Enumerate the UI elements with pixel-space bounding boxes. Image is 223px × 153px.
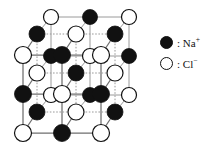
lattice-diagram [0, 0, 223, 153]
ion-cl [44, 10, 59, 25]
nacl-lattice-figure: : Na+ : Cl− [0, 0, 223, 153]
ion-na [54, 47, 71, 64]
ion-cl [107, 65, 123, 81]
open-circle-icon [160, 57, 173, 70]
ion-cl [15, 125, 32, 142]
ion-cl [68, 26, 84, 42]
ion-na [29, 104, 45, 120]
ion-na [93, 86, 110, 103]
ion-na [68, 65, 84, 81]
ion-cl [54, 86, 71, 103]
ion-cl [29, 65, 45, 81]
ion-na [107, 104, 123, 120]
ion-cl [93, 125, 110, 142]
legend-label-cl: : Cl− [177, 57, 197, 70]
ion-na [83, 10, 98, 25]
legend: : Na+ : Cl− [160, 32, 222, 74]
ion-cl [68, 104, 84, 120]
ion-na [107, 26, 123, 42]
filled-circle-icon [160, 36, 173, 49]
ion-cl [15, 47, 32, 64]
ion-na [54, 125, 71, 142]
ion-na [15, 86, 32, 103]
ion-cl [122, 88, 137, 103]
ion-na [122, 49, 137, 64]
ion-cl [122, 10, 137, 25]
legend-label-na: : Na+ [177, 36, 200, 49]
ion-na [29, 26, 45, 42]
legend-item-cl: : Cl− [160, 53, 222, 74]
legend-item-na: : Na+ [160, 32, 222, 53]
ion-cl [93, 47, 110, 64]
